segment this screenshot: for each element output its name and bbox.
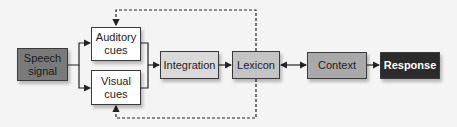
node-label: Visual — [101, 75, 131, 88]
node-label: Speech — [24, 52, 61, 65]
edge-speech-auditory — [68, 43, 90, 65]
node-label: Lexicon — [237, 59, 275, 72]
node-lexicon: Lexicon — [232, 51, 280, 79]
node-label: cues — [101, 88, 131, 101]
node-speech-signal: Speechsignal — [17, 48, 68, 81]
node-response: Response — [380, 52, 440, 79]
node-label: cues — [96, 44, 136, 57]
node-integration: Integration — [160, 51, 219, 79]
node-label: Response — [384, 59, 437, 72]
node-label: Auditory — [96, 31, 136, 44]
node-visual-cues: Visualcues — [91, 70, 141, 105]
edge-speech-visual — [79, 65, 90, 88]
node-context: Context — [307, 52, 367, 79]
node-label: signal — [24, 65, 61, 78]
node-label: Context — [318, 59, 356, 72]
node-auditory-cues: Auditorycues — [91, 27, 141, 61]
edge-cues-merge — [141, 43, 148, 88]
node-label: Integration — [164, 59, 216, 72]
